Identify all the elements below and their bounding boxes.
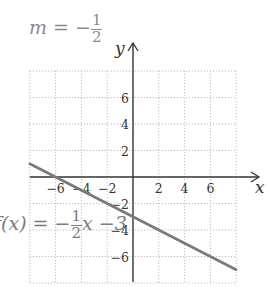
y-axis-label: y [114,38,125,58]
equation-prefix: f(x) = − [0,212,71,234]
y-tick-label: 4 [121,117,129,132]
x-tick-label: 2 [155,181,163,196]
axes: xy [30,38,265,282]
slope-denominator: 2 [91,30,103,46]
x-tick-label: −6 [46,181,64,196]
x-tick-label: 6 [206,181,214,196]
x-tick-label: 4 [181,181,189,196]
x-axis-label: x [255,177,265,197]
slope-fraction: 12 [91,13,103,46]
slope-annotation: m = −12 [29,13,102,46]
x-tick-label: −2 [98,181,116,196]
y-tick-label: −6 [111,250,129,265]
y-tick-label: 6 [121,91,129,106]
equation-label: f(x) = −12x −3 [0,209,127,242]
equation-suffix: x −3 [82,212,127,234]
equation-fraction: 12 [71,209,83,242]
equation-denominator: 2 [71,226,83,242]
slope-prefix: m = − [29,16,91,38]
y-tick-label: 2 [121,144,129,159]
